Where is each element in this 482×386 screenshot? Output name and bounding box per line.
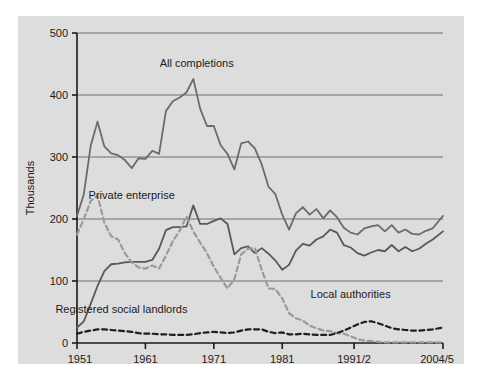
y-tick-label-400: 400 bbox=[50, 89, 68, 101]
housing-completions-chart: 010020030040050019511961197119811991/220… bbox=[0, 0, 482, 386]
x-tick-label-1981: 1981 bbox=[270, 353, 294, 365]
x-tick-label-2004/5: 2004/5 bbox=[420, 353, 454, 365]
series-annotation-registered-social-landlords: Registered social landlords bbox=[55, 303, 188, 315]
chart-svg: 010020030040050019511961197119811991/220… bbox=[0, 0, 482, 386]
x-tick-label-1991/2: 1991/2 bbox=[337, 353, 371, 365]
x-tick-label-1951: 1951 bbox=[68, 353, 92, 365]
y-tick-label-200: 200 bbox=[50, 213, 68, 225]
series-annotation-private-enterprise: Private enterprise bbox=[89, 189, 175, 201]
x-tick-label-1971: 1971 bbox=[202, 353, 226, 365]
y-axis-title: Thousands bbox=[24, 160, 36, 215]
y-tick-label-100: 100 bbox=[50, 275, 68, 287]
series-line-registered-social-landlords bbox=[77, 321, 443, 335]
y-tick-label-300: 300 bbox=[50, 151, 68, 163]
y-tick-label-0: 0 bbox=[62, 337, 68, 349]
series-annotation-local-authorities: Local authorities bbox=[311, 288, 392, 300]
x-tick-label-1961: 1961 bbox=[133, 353, 157, 365]
series-line-local-authorities bbox=[77, 195, 443, 342]
series-annotation-all-completions: All completions bbox=[160, 57, 234, 69]
y-tick-label-500: 500 bbox=[50, 27, 68, 39]
